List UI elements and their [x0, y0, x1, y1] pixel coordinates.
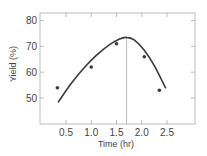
x-tick-label: 1.0 — [84, 127, 98, 138]
data-point — [89, 65, 93, 69]
yield-vs-time-chart: 50607080 0.51.01.52.02.5 Time (hr) Yield… — [0, 0, 207, 156]
x-tick-label: 2.0 — [135, 127, 149, 138]
x-axis-ticks: 0.51.01.52.02.5 — [59, 13, 174, 138]
y-axis-ticks: 50607080 — [26, 15, 195, 103]
x-tick-label: 0.5 — [59, 127, 73, 138]
data-points — [56, 42, 162, 92]
y-axis-label: Yield (%) — [8, 46, 18, 82]
y-tick-label: 80 — [26, 15, 38, 26]
data-point — [142, 55, 146, 59]
x-tick-label: 1.5 — [110, 127, 124, 138]
x-tick-label: 2.5 — [160, 127, 174, 138]
x-axis-label: Time (hr) — [98, 139, 134, 149]
y-tick-label: 60 — [26, 67, 38, 78]
y-tick-label: 50 — [26, 93, 38, 104]
data-point — [115, 42, 119, 46]
data-point — [56, 86, 60, 90]
plot-frame — [40, 13, 195, 124]
fitted-curve — [58, 37, 165, 102]
data-point — [158, 88, 162, 92]
y-tick-label: 70 — [26, 41, 38, 52]
